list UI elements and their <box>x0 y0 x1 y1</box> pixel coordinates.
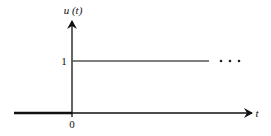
unit-step-diagram: u (t) 1 0 t <box>0 0 271 136</box>
level-one-label: 1 <box>61 55 67 67</box>
continuation-dots <box>220 60 241 63</box>
x-axis-label: t <box>255 107 259 119</box>
y-axis-label: u (t) <box>64 4 83 17</box>
origin-label: 0 <box>69 118 75 130</box>
